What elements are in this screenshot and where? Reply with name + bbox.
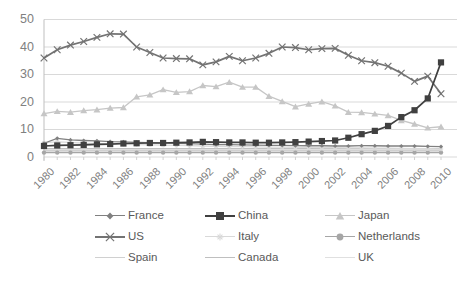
data-point-marker bbox=[226, 139, 232, 145]
legend-label: France bbox=[128, 210, 164, 222]
y-tick-label: 50 bbox=[8, 13, 34, 26]
data-point-marker bbox=[345, 52, 352, 59]
data-point-marker bbox=[107, 212, 114, 219]
legend-label: Japan bbox=[358, 210, 389, 222]
data-point-marker bbox=[266, 140, 272, 146]
data-point-marker bbox=[267, 150, 271, 154]
legend-item-us[interactable]: US bbox=[95, 231, 205, 243]
data-point-marker bbox=[398, 70, 405, 77]
line-chart: 50403020100 1980198219841986198819901992… bbox=[0, 0, 457, 283]
data-point-marker bbox=[67, 142, 73, 148]
series-china bbox=[41, 59, 444, 149]
data-point-marker bbox=[332, 137, 338, 143]
data-point-marker bbox=[68, 150, 72, 154]
data-point-marker bbox=[398, 114, 404, 120]
data-point-marker bbox=[42, 150, 46, 154]
legend-item-china[interactable]: China bbox=[205, 210, 325, 222]
data-point-marker bbox=[94, 141, 100, 147]
data-point-marker bbox=[55, 136, 59, 140]
data-point-marker bbox=[279, 98, 286, 104]
data-point-marker bbox=[82, 150, 86, 154]
square-marker-icon bbox=[205, 210, 235, 222]
data-point-marker bbox=[438, 90, 445, 97]
star-marker-icon bbox=[205, 231, 235, 243]
data-point-marker bbox=[55, 150, 59, 154]
data-point-marker bbox=[337, 233, 344, 240]
data-point-marker bbox=[106, 232, 114, 240]
legend-item-france[interactable]: France bbox=[95, 210, 205, 222]
data-point-marker bbox=[217, 233, 224, 240]
data-point-marker bbox=[201, 150, 205, 154]
data-point-marker bbox=[160, 140, 166, 146]
legend-item-uk[interactable]: UK bbox=[325, 252, 447, 264]
diamond-marker-icon bbox=[95, 210, 125, 222]
data-point-marker bbox=[213, 139, 219, 145]
legend-item-netherlands[interactable]: Netherlands bbox=[325, 231, 447, 243]
legend-label: Canada bbox=[238, 252, 278, 264]
data-point-marker bbox=[81, 142, 87, 148]
data-point-marker bbox=[292, 139, 298, 145]
data-point-marker bbox=[306, 139, 312, 145]
legend-item-japan[interactable]: Japan bbox=[325, 210, 447, 222]
chart-legend: FranceChinaJapanUSItalyNetherlandsSpainC… bbox=[95, 205, 447, 267]
y-tick-label: 0 bbox=[8, 151, 34, 164]
none-marker-icon bbox=[95, 252, 125, 264]
none-marker-icon bbox=[325, 252, 355, 264]
data-point-marker bbox=[319, 138, 325, 144]
data-point-marker bbox=[411, 107, 417, 113]
none-marker-icon bbox=[205, 252, 235, 264]
data-point-marker bbox=[293, 150, 297, 154]
data-point-marker bbox=[174, 150, 178, 154]
data-point-marker bbox=[173, 140, 179, 146]
data-point-marker bbox=[359, 131, 365, 137]
data-point-marker bbox=[216, 212, 224, 220]
data-point-marker bbox=[345, 135, 351, 141]
legend-label: Netherlands bbox=[358, 231, 420, 243]
data-point-marker bbox=[147, 140, 153, 146]
data-point-marker bbox=[333, 150, 337, 154]
data-point-marker bbox=[254, 150, 258, 154]
data-point-marker bbox=[160, 86, 167, 92]
legend-item-canada[interactable]: Canada bbox=[205, 252, 325, 264]
legend-item-italy[interactable]: Italy bbox=[205, 231, 325, 243]
data-point-marker bbox=[240, 150, 244, 154]
data-point-marker bbox=[226, 79, 233, 85]
legend-label: UK bbox=[358, 252, 374, 264]
data-point-marker bbox=[385, 123, 391, 129]
legend-label: China bbox=[238, 210, 268, 222]
data-point-marker bbox=[253, 140, 259, 146]
y-tick-label: 40 bbox=[8, 41, 34, 54]
triangle-marker-icon bbox=[325, 210, 355, 222]
data-point-marker bbox=[373, 150, 377, 154]
data-point-marker bbox=[214, 150, 218, 154]
data-point-marker bbox=[346, 150, 350, 154]
data-point-marker bbox=[147, 49, 154, 56]
data-point-marker bbox=[239, 139, 245, 145]
gridlines bbox=[44, 20, 457, 158]
y-tick-label: 10 bbox=[8, 123, 34, 136]
data-point-marker bbox=[336, 212, 344, 219]
legend-label: Spain bbox=[128, 252, 157, 264]
circle-marker-icon bbox=[325, 231, 355, 243]
data-point-marker bbox=[107, 141, 113, 147]
data-point-marker bbox=[108, 150, 112, 154]
data-point-marker bbox=[227, 150, 231, 154]
data-point-marker bbox=[95, 150, 99, 154]
data-point-marker bbox=[372, 128, 378, 134]
data-point-marker bbox=[306, 150, 310, 154]
data-point-marker bbox=[412, 150, 416, 154]
data-point-marker bbox=[200, 139, 206, 145]
y-tick-label: 30 bbox=[8, 68, 34, 81]
data-point-marker bbox=[425, 95, 431, 101]
data-point-marker bbox=[320, 150, 324, 154]
data-point-marker bbox=[426, 150, 430, 154]
data-point-marker bbox=[399, 150, 403, 154]
legend-item-spain[interactable]: Spain bbox=[95, 252, 205, 264]
y-tick-label: 20 bbox=[8, 96, 34, 109]
legend-label: US bbox=[128, 231, 144, 243]
data-point-marker bbox=[438, 59, 444, 65]
data-point-marker bbox=[41, 143, 47, 149]
x-marker-icon bbox=[95, 231, 125, 243]
series-layer bbox=[41, 31, 445, 155]
series-japan bbox=[41, 79, 445, 131]
